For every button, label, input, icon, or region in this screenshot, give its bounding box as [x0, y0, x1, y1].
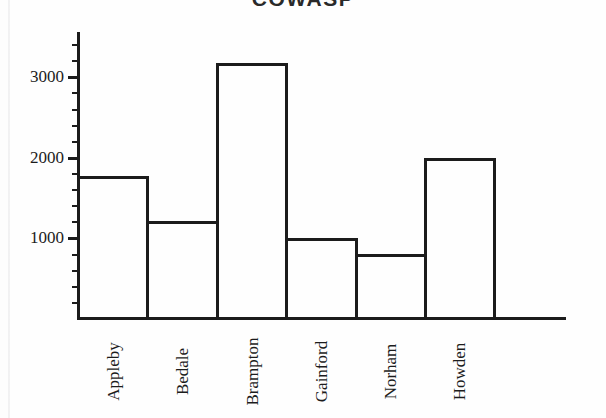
x-category-label-text: Appleby — [105, 342, 122, 401]
bar — [285, 238, 357, 320]
y-tick-label: 1000 — [30, 229, 64, 246]
x-category-label: Howden — [453, 323, 467, 415]
x-category-label-text: Howden — [452, 343, 469, 401]
bar — [77, 176, 149, 320]
bar — [424, 158, 496, 320]
x-axis-category-labels: ApplebyBedaleBramptonGainfordNorhamHowde… — [77, 323, 566, 418]
bar — [355, 254, 427, 320]
y-axis-tick-labels: 100020003000 — [0, 0, 64, 418]
x-category-label: Appleby — [106, 323, 120, 415]
x-category-label: Norham — [384, 323, 398, 415]
x-category-label-text: Norham — [382, 344, 399, 400]
bar — [216, 63, 288, 320]
x-category-label-text: Bedale — [174, 348, 191, 395]
x-category-label: Bedale — [176, 323, 190, 415]
bar — [146, 221, 218, 320]
x-category-label: Brampton — [245, 323, 259, 415]
x-category-label: Gainford — [314, 323, 328, 415]
y-tick-label: 3000 — [30, 68, 64, 85]
chart-figure: COWASP 100020003000 ApplebyBedaleBrampto… — [0, 0, 606, 418]
x-category-label-text: Brampton — [244, 338, 261, 406]
y-tick-label: 2000 — [30, 148, 64, 165]
x-category-label-text: Gainford — [313, 341, 330, 402]
